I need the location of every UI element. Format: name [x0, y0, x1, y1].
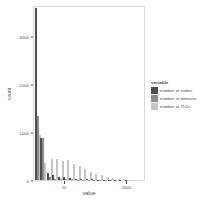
legend-item-label: number of nodes	[160, 88, 192, 93]
legend-item-label: number of TLDs	[160, 104, 191, 109]
plot-area	[34, 7, 144, 180]
legend-item[interactable]: number of TLDs	[151, 103, 207, 111]
legend-title: variable	[151, 80, 207, 85]
y-axis-tick-label: 0	[27, 179, 29, 184]
legend: variable number of nodesnumber of domain…	[151, 80, 207, 111]
x-axis-tick-mark	[126, 181, 127, 184]
legend-item-label: number of domains	[160, 96, 197, 101]
plot-panel	[33, 6, 145, 181]
legend-color-swatch	[151, 95, 158, 103]
y-axis-tick-label: 1000	[19, 131, 29, 136]
chart-figure: count 0100020003000 101000 value variabl…	[0, 0, 208, 211]
legend-item[interactable]: number of domains	[151, 95, 207, 103]
bar-group	[40, 138, 46, 180]
y-axis-tick-label: 2000	[19, 83, 29, 88]
y-axis-tick-label: 3000	[19, 35, 29, 40]
y-axis: 0100020003000	[0, 6, 33, 181]
legend-color-swatch	[151, 87, 158, 95]
x-axis-tick-mark	[64, 181, 65, 184]
x-axis-title: value	[33, 190, 145, 196]
legend-items: number of nodesnumber of domainsnumber o…	[151, 87, 207, 111]
legend-color-swatch	[151, 103, 158, 111]
legend-item[interactable]: number of nodes	[151, 87, 207, 95]
